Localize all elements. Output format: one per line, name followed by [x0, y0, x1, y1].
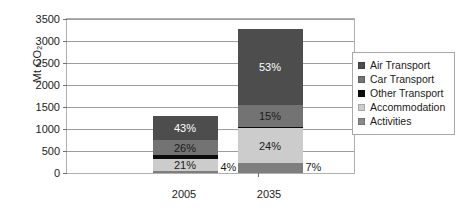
y-axis-tick-mark: [63, 129, 67, 130]
bar-segment-car-transport[interactable]: 15%: [238, 105, 303, 127]
y-axis-tick-label: 0: [54, 167, 60, 179]
legend-swatch-icon: [358, 62, 365, 69]
y-axis-tick-mark: [63, 85, 67, 86]
legend-swatch-icon: [358, 90, 365, 97]
y-axis-tick-mark: [63, 151, 67, 152]
y-axis-tick-label: 3000: [36, 35, 60, 47]
y-axis-tick-label: 1000: [36, 123, 60, 135]
gridline: [67, 41, 354, 42]
segment-percent-label: 24%: [238, 140, 303, 151]
y-axis-tick-mark: [63, 63, 67, 64]
bar-segment-accommodation[interactable]: 24%: [238, 128, 303, 163]
bar-segment-accommodation[interactable]: 21%: [153, 159, 218, 171]
legend-item-label: Other Transport: [370, 87, 444, 100]
segment-percent-label: 15%: [238, 111, 303, 122]
x-axis-label-2035: 2035: [257, 188, 281, 200]
legend-item-label: Accommodation: [370, 101, 445, 114]
gridline: [67, 107, 354, 108]
bar-segment-other-transport[interactable]: [238, 127, 303, 128]
legend-item-air-transport[interactable]: Air Transport: [358, 59, 450, 72]
legend-swatch-icon: [358, 104, 365, 111]
bar-segment-activities[interactable]: [153, 171, 218, 173]
y-axis-tick-mark: [63, 19, 67, 20]
bar-2035[interactable]: 24%15%53%: [238, 29, 303, 173]
segment-percent-label: 26%: [153, 142, 218, 153]
y-axis-tick-label: 2500: [36, 57, 60, 69]
outside-percent-label: 7%: [306, 161, 322, 173]
segment-percent-label: 21%: [153, 159, 218, 170]
segment-percent-label: 43%: [153, 123, 218, 134]
bar-2005[interactable]: 21%26%43%: [153, 116, 218, 173]
plot-area: 050010001500200025003000350021%26%43%24%…: [66, 18, 355, 174]
legend-swatch-icon: [358, 118, 365, 125]
bar-segment-other-transport[interactable]: [153, 155, 218, 158]
y-axis-tick-label: 1500: [36, 101, 60, 113]
y-axis-tick-mark: [63, 107, 67, 108]
legend-item-car-transport[interactable]: Car Transport: [358, 73, 450, 86]
legend-item-accommodation[interactable]: Accommodation: [358, 101, 450, 114]
legend-item-label: Car Transport: [370, 73, 434, 86]
y-axis-tick-label: 500: [42, 145, 60, 157]
legend-item-label: Activities: [370, 115, 411, 128]
bar-segment-activities[interactable]: [238, 163, 303, 173]
segment-percent-label: 53%: [238, 62, 303, 73]
outside-percent-label: 4%: [221, 161, 237, 173]
legend-item-label: Air Transport: [370, 59, 430, 72]
x-axis-tick-mark: [258, 173, 259, 177]
legend-item-activities[interactable]: Activities: [358, 115, 450, 128]
y-axis-tick-mark: [63, 41, 67, 42]
stacked-bar-chart: Mt CO2 050010001500200025003000350021%26…: [0, 0, 459, 212]
gridline: [67, 19, 354, 20]
legend-swatch-icon: [358, 76, 365, 83]
bar-segment-car-transport[interactable]: 26%: [153, 140, 218, 155]
bar-segment-air-transport[interactable]: 53%: [238, 29, 303, 105]
legend-item-other-transport[interactable]: Other Transport: [358, 87, 450, 100]
gridline: [67, 63, 354, 64]
chart-legend: Air TransportCar TransportOther Transpor…: [352, 52, 455, 135]
bar-segment-air-transport[interactable]: 43%: [153, 116, 218, 141]
y-axis-tick-label: 3500: [36, 13, 60, 25]
y-axis-tick-label: 2000: [36, 79, 60, 91]
x-axis-label-2005: 2005: [172, 188, 196, 200]
y-axis-tick-mark: [63, 173, 67, 174]
gridline: [67, 85, 354, 86]
